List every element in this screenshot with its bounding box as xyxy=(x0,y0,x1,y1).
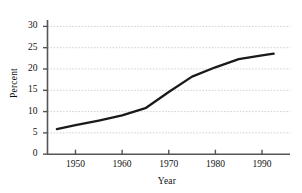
x-tick-label: 1960 xyxy=(102,159,142,169)
y-tick-label: 25 xyxy=(16,42,38,52)
y-axis-title: Percent xyxy=(9,55,19,111)
x-axis-title: Year xyxy=(122,176,212,186)
data-series-group xyxy=(57,54,274,129)
chart-figure: 051015202530 19501960197019801990 Percen… xyxy=(0,0,302,193)
y-tick-label: 30 xyxy=(16,20,38,30)
x-tick-label: 1970 xyxy=(149,159,189,169)
x-tick-label: 1990 xyxy=(242,159,282,169)
series-line-percent xyxy=(57,54,274,129)
x-tick-label: 1980 xyxy=(195,159,235,169)
axis-spine-group xyxy=(47,20,290,155)
y-tick-label: 5 xyxy=(16,127,38,137)
x-tick-label: 1950 xyxy=(55,159,95,169)
y-tick-label: 0 xyxy=(16,148,38,158)
gridline-group xyxy=(48,26,291,133)
